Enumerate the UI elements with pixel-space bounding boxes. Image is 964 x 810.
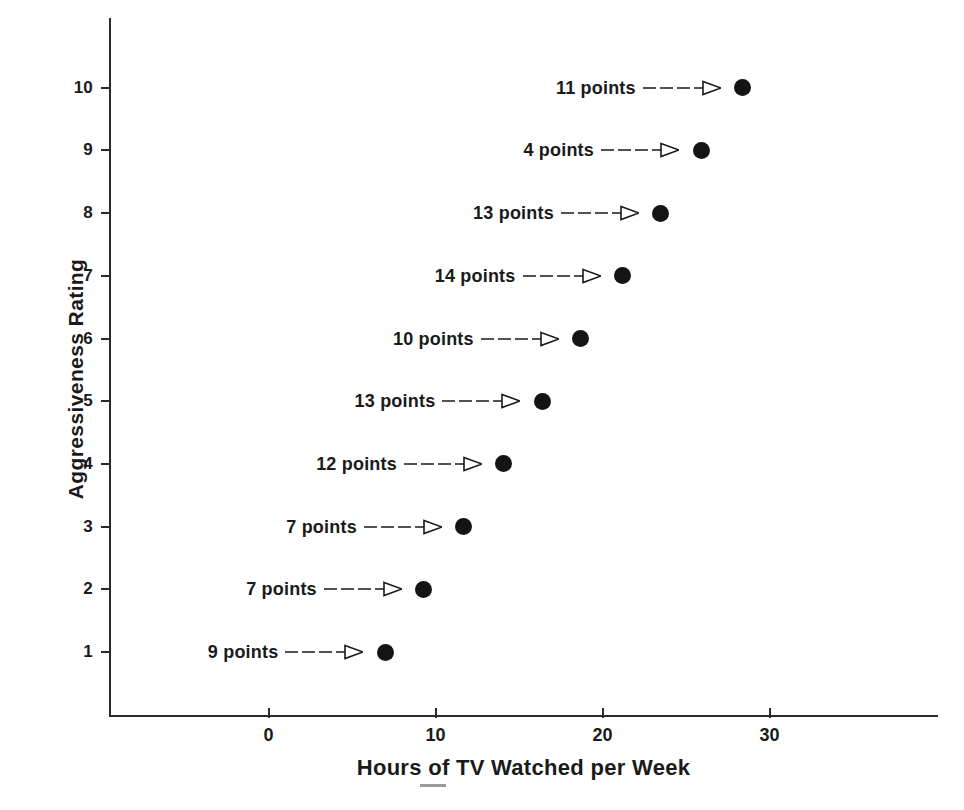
x-tick-label-0: 0 <box>239 726 299 744</box>
data-point <box>534 393 551 410</box>
annotation-arrow-icon <box>442 393 520 409</box>
data-point <box>734 79 751 96</box>
point-annotation: 9 points <box>0 641 363 663</box>
annotation-arrow-icon <box>324 581 402 597</box>
annotation-label: 13 points <box>473 204 561 222</box>
x-tick-label-30: 30 <box>740 726 800 744</box>
data-point <box>693 142 710 159</box>
x-tick-10 <box>435 708 437 718</box>
annotation-arrow-icon <box>404 456 482 472</box>
annotation-arrow-icon <box>561 205 639 221</box>
x-axis-line <box>109 715 938 717</box>
point-annotation: 11 points <box>0 77 721 99</box>
x-tick-label-20: 20 <box>573 726 633 744</box>
point-annotation: 4 points <box>0 139 679 161</box>
annotation-arrow-icon <box>285 644 363 660</box>
annotation-label: 14 points <box>435 267 523 285</box>
data-point <box>415 581 432 598</box>
caption-remnant <box>110 792 790 806</box>
x-tick-20 <box>602 708 604 718</box>
annotation-label: 10 points <box>393 330 481 348</box>
point-annotation: 13 points <box>0 390 520 412</box>
annotation-label: 13 points <box>355 392 443 410</box>
caption-dash <box>420 784 446 787</box>
annotation-arrow-icon <box>364 519 442 535</box>
annotation-label: 7 points <box>286 518 364 536</box>
point-annotation: 7 points <box>0 578 402 600</box>
annotation-arrow-icon <box>643 80 721 96</box>
data-point <box>572 330 589 347</box>
annotation-label: 12 points <box>316 455 404 473</box>
chart-figure: 12345678910 0102030 Aggressiveness Ratin… <box>0 0 964 810</box>
annotation-arrow-icon <box>481 331 559 347</box>
annotation-label: 4 points <box>523 141 601 159</box>
annotation-arrow-icon <box>523 268 601 284</box>
y-axis-line <box>109 18 111 717</box>
point-annotation: 7 points <box>0 516 442 538</box>
point-annotation: 10 points <box>0 328 559 350</box>
point-annotation: 14 points <box>0 265 601 287</box>
point-annotation: 13 points <box>0 202 639 224</box>
data-point <box>495 455 512 472</box>
annotation-label: 7 points <box>246 580 324 598</box>
data-point <box>377 644 394 661</box>
x-tick-30 <box>769 708 771 718</box>
point-annotation: 12 points <box>0 453 482 475</box>
annotation-label: 11 points <box>556 79 643 97</box>
x-tick-0 <box>268 708 270 718</box>
data-point <box>614 267 631 284</box>
x-tick-label-10: 10 <box>406 726 466 744</box>
annotation-arrow-icon <box>601 142 679 158</box>
data-point <box>652 205 669 222</box>
x-axis-title: Hours of TV Watched per Week <box>109 755 938 781</box>
data-point <box>455 518 472 535</box>
annotation-label: 9 points <box>208 643 286 661</box>
